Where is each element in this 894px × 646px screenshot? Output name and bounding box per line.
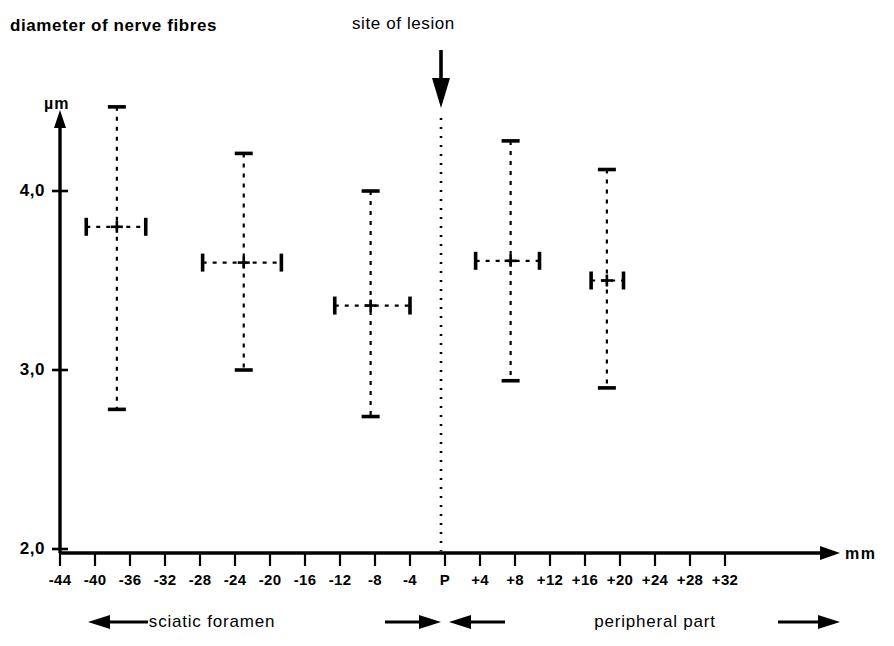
legend-arrow-converge-right <box>449 615 505 629</box>
lesion-indicator <box>432 50 450 551</box>
figure-container: diameter of nerve fibres site of lesion … <box>0 0 894 646</box>
lesion-arrowhead <box>432 78 450 108</box>
plot-area <box>0 0 894 646</box>
legend-arrow-left <box>88 615 148 629</box>
x-axis <box>60 546 840 560</box>
x-axis-arrowhead <box>820 546 840 560</box>
y-axis-arrowhead <box>54 110 66 128</box>
data-point <box>86 107 146 410</box>
data-point <box>591 170 623 388</box>
y-axis <box>54 110 66 553</box>
data-point <box>476 141 540 381</box>
data-point <box>335 191 410 417</box>
data-point-group <box>86 107 623 417</box>
legend-arrow-right <box>778 615 840 629</box>
x-axis-ticks <box>60 553 725 566</box>
data-point <box>203 153 282 370</box>
legend-arrow-converge-left <box>385 615 441 629</box>
